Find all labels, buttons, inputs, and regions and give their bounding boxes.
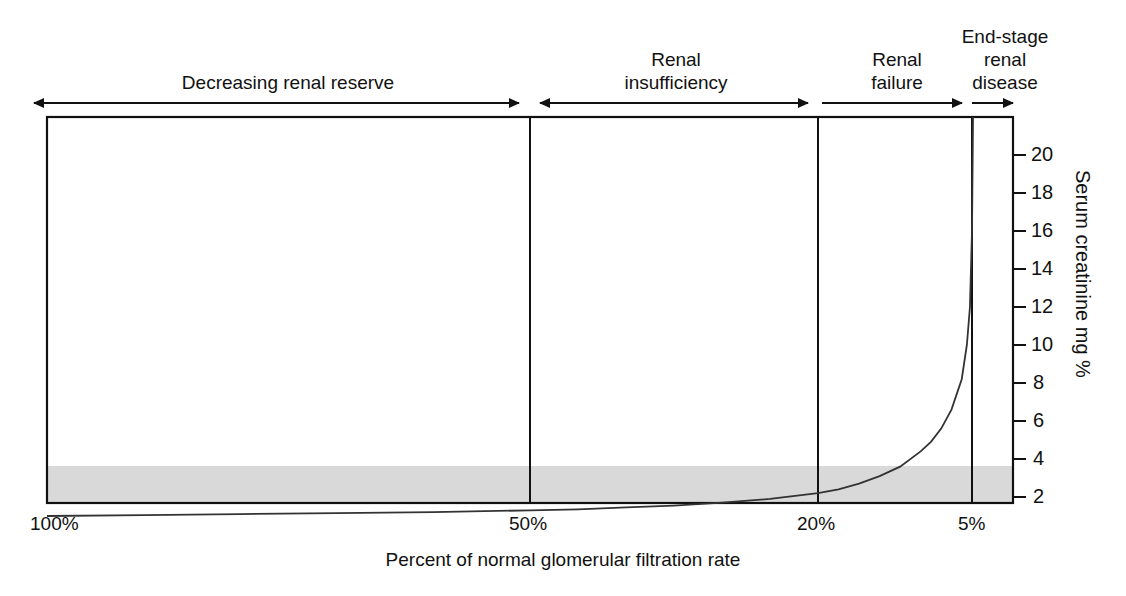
serum-creatinine-curve (47, 117, 973, 516)
chart-canvas (0, 0, 1126, 596)
kidney-disease-progression-figure: Decreasing renal reserve Renal insuffici… (0, 0, 1126, 596)
y-axis-ticks (1013, 155, 1026, 497)
